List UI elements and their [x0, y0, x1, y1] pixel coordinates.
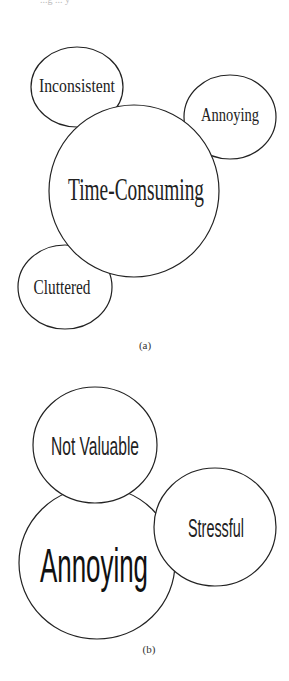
caption-a: (a) [125, 339, 165, 351]
label-annoying-a: Annoying [201, 104, 259, 125]
caption-b: (b) [129, 643, 169, 655]
label-time-consuming: Time-Consuming [68, 171, 204, 207]
label-inconsistent: Inconsistent [39, 75, 116, 96]
label-annoying-b: Annoying [40, 539, 148, 592]
label-stressful: Stressful [188, 513, 244, 543]
label-not-valuable: Not Valuable [51, 431, 139, 461]
label-cluttered: Cluttered [34, 276, 91, 298]
diagram-a: Inconsistent Annoying Time-Consuming Clu… [18, 47, 276, 329]
diagram-b: Not Valuable Stressful Annoying [19, 387, 276, 639]
